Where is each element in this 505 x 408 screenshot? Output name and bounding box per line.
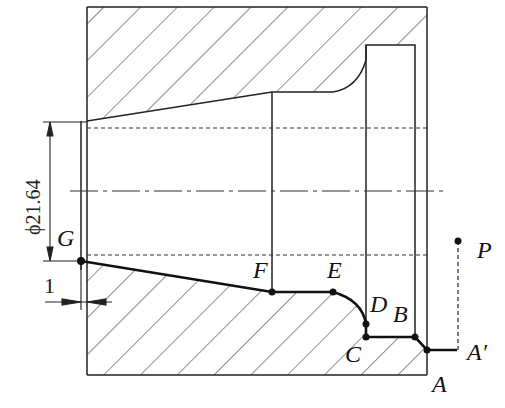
upper-section-hatch xyxy=(80,0,440,130)
label-e: E xyxy=(327,258,342,282)
point-p xyxy=(455,238,462,245)
label-c: C xyxy=(345,342,361,366)
point-a xyxy=(424,347,431,354)
label-d: D xyxy=(370,292,387,316)
label-a-prime: A′ xyxy=(467,340,487,364)
diameter-label: ϕ21.64 xyxy=(22,179,45,235)
label-g: G xyxy=(57,226,74,250)
label-b: B xyxy=(393,302,408,326)
point-f xyxy=(269,289,276,296)
point-d xyxy=(363,321,370,328)
point-g xyxy=(77,257,85,265)
label-a: A xyxy=(432,372,447,396)
point-b xyxy=(412,334,419,341)
label-f: F xyxy=(253,258,268,282)
label-p: P xyxy=(477,238,492,262)
drawing-canvas xyxy=(0,0,505,408)
point-c xyxy=(363,334,370,341)
point-e xyxy=(330,289,337,296)
offset-label: 1 xyxy=(44,273,55,299)
technical-drawing: ϕ21.64 1 G F E D C B A A′ P xyxy=(0,0,505,408)
